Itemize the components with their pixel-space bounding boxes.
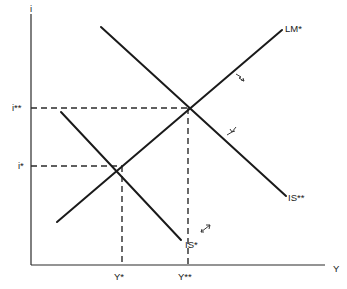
is-double-star-label: IS** xyxy=(288,192,305,203)
is-star-label: IS* xyxy=(185,239,198,250)
is-double-star-curve xyxy=(101,27,286,196)
i-double-star-label: i** xyxy=(12,102,22,113)
is-star-shift-arrow-icon xyxy=(201,225,210,232)
y-star-label: Y* xyxy=(114,271,124,282)
y-double-star-label: Y** xyxy=(178,271,192,282)
i-star-label: i* xyxy=(18,160,24,171)
lm-star-label: LM* xyxy=(285,23,302,34)
x-axis-label: Y xyxy=(333,263,340,274)
lm-star-curve xyxy=(57,30,282,222)
lm-shift-arrow-icon xyxy=(236,74,244,81)
is-double-star-shift-arrow-icon xyxy=(227,127,236,135)
is-lm-diagram: i Y LM* IS** IS* i** i* Y* Y** xyxy=(0,0,347,289)
y-axis-label: i xyxy=(30,3,32,14)
